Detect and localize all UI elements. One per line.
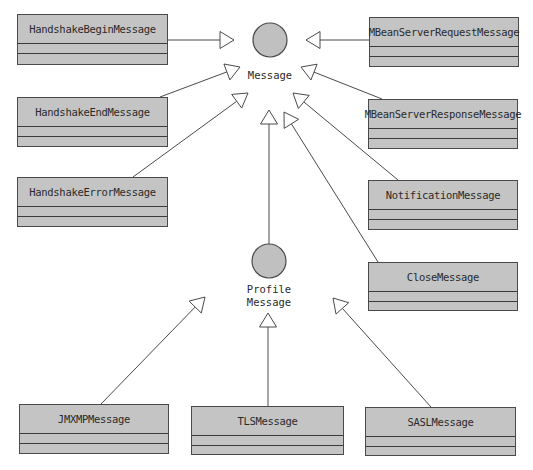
generalization-jmxmp-to-profile-message (101, 297, 205, 404)
class-name: CloseMessage (369, 263, 517, 292)
class-name: MBeanServerResponseMessage (369, 100, 517, 129)
class-operations-compartment (366, 447, 515, 455)
class-tls: TLSMessage (191, 406, 344, 455)
hollow-triangle-arrowhead-icon (333, 298, 349, 314)
hollow-triangle-arrowhead-icon (232, 93, 248, 108)
hollow-triangle-arrowhead-icon (293, 93, 309, 109)
interface-label-line: Message (247, 296, 291, 309)
class-mbean-request: MBeanServerRequestMessage (369, 17, 519, 67)
hollow-triangle-arrowhead-icon (306, 32, 320, 49)
generalization-tls-to-profile-message (260, 313, 277, 406)
generalization-handshake-begin-to-message (168, 32, 234, 49)
class-operations-compartment (192, 446, 343, 454)
class-operations-compartment (18, 54, 167, 62)
class-name: TLSMessage (192, 407, 343, 436)
generalization-mbean-request-to-message (306, 32, 369, 49)
class-operations-compartment (370, 57, 518, 65)
generalization-line (314, 72, 382, 99)
class-name: HandshakeBeginMessage (18, 15, 167, 44)
generalization-line (291, 124, 378, 262)
class-close: CloseMessage (368, 262, 518, 311)
class-jmxmp: JMXMPMessage (19, 404, 169, 454)
generalization-sasl-to-profile-message (333, 298, 431, 407)
class-handshake-end: HandshakeEndMessage (17, 97, 168, 147)
class-name: JMXMPMessage (20, 405, 168, 434)
generalization-profile-message-to-message (261, 110, 278, 244)
interface-profile-message-circle-icon (252, 244, 286, 278)
generalization-line (342, 308, 431, 407)
class-handshake-begin: HandshakeBeginMessage (17, 14, 168, 65)
class-name: SASLMessage (366, 408, 515, 437)
class-attributes-compartment (192, 436, 343, 446)
interface-message-circle-icon (253, 23, 287, 57)
generalization-handshake-end-to-message (160, 64, 240, 97)
generalization-close-to-message (284, 112, 378, 262)
class-operations-compartment (369, 220, 517, 228)
interface-label-line: Profile (247, 283, 291, 296)
class-attributes-compartment (20, 434, 168, 444)
interface-profile-message-label: ProfileMessage (247, 283, 291, 309)
class-sasl: SASLMessage (365, 407, 516, 456)
class-handshake-error: HandshakeErrorMessage (17, 177, 168, 227)
class-attributes-compartment (366, 437, 515, 447)
class-name: HandshakeEndMessage (18, 98, 167, 127)
class-mbean-response: MBeanServerResponseMessage (368, 99, 518, 149)
interface-message-label: Message (248, 69, 292, 82)
class-operations-compartment (369, 139, 517, 147)
class-attributes-compartment (369, 129, 517, 139)
class-attributes-compartment (369, 210, 517, 220)
class-attributes-compartment (18, 207, 167, 217)
class-operations-compartment (18, 137, 167, 145)
class-name: HandshakeErrorMessage (18, 178, 167, 207)
class-name: NotificationMessage (369, 181, 517, 210)
class-notification: NotificationMessage (368, 180, 518, 230)
class-operations-compartment (20, 444, 168, 452)
generalization-line (101, 307, 195, 404)
class-name: MBeanServerRequestMessage (370, 18, 518, 47)
hollow-triangle-arrowhead-icon (284, 112, 299, 128)
generalization-line (160, 72, 227, 97)
class-attributes-compartment (369, 292, 517, 302)
hollow-triangle-arrowhead-icon (261, 110, 278, 124)
hollow-triangle-arrowhead-icon (220, 32, 234, 49)
class-attributes-compartment (370, 47, 518, 57)
hollow-triangle-arrowhead-icon (260, 313, 277, 327)
interface-label-line: Message (248, 69, 292, 82)
class-operations-compartment (18, 217, 167, 225)
class-attributes-compartment (18, 44, 167, 54)
generalization-mbean-response-to-message (301, 64, 382, 99)
class-operations-compartment (369, 302, 517, 310)
class-attributes-compartment (18, 127, 167, 137)
